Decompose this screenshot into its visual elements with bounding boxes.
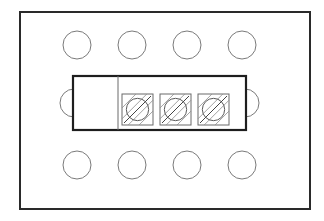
terminal-block-diagram bbox=[0, 0, 324, 221]
screw-terminal-2 bbox=[160, 94, 191, 125]
screw-terminals bbox=[122, 94, 229, 125]
mounting-hole-bottom-2 bbox=[118, 151, 146, 179]
screw-terminal-3 bbox=[198, 94, 229, 125]
mounting-hole-top-3 bbox=[173, 31, 201, 59]
terminal-block bbox=[73, 76, 246, 130]
mounting-hole-bottom-3 bbox=[173, 151, 201, 179]
mounting-hole-bottom-4 bbox=[228, 151, 256, 179]
mounting-hole-top-4 bbox=[228, 31, 256, 59]
mounting-hole-top-1 bbox=[63, 31, 91, 59]
mounting-hole-bottom-1 bbox=[63, 151, 91, 179]
screw-terminal-1 bbox=[122, 94, 153, 125]
mounting-hole-top-2 bbox=[118, 31, 146, 59]
